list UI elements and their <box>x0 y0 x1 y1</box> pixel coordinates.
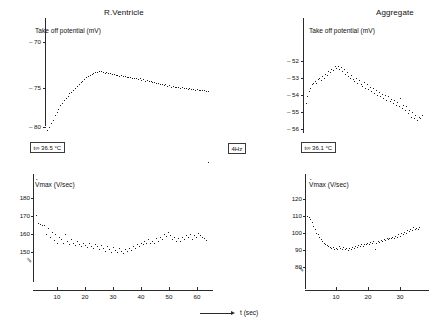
data-point <box>319 237 320 238</box>
data-point <box>90 75 91 76</box>
data-point <box>106 72 107 73</box>
data-point <box>147 80 148 81</box>
data-point <box>164 85 165 86</box>
data-point <box>310 88 311 89</box>
data-point <box>156 83 157 84</box>
data-point <box>88 76 89 77</box>
data-point <box>368 89 369 90</box>
data-point <box>167 86 168 87</box>
data-point <box>61 239 62 240</box>
data-point <box>178 238 179 239</box>
data-point <box>422 115 423 116</box>
data-point <box>373 88 374 89</box>
data-point <box>371 91 372 92</box>
data-point <box>130 77 131 78</box>
data-point <box>376 90 377 91</box>
data-point <box>318 234 319 235</box>
data-point <box>93 73 94 74</box>
data-point <box>140 78 141 79</box>
data-point <box>113 247 114 248</box>
data-point <box>307 96 308 97</box>
data-point <box>119 248 120 249</box>
data-point <box>324 78 325 79</box>
scatter-points <box>216 0 432 162</box>
data-point <box>143 244 144 245</box>
data-point <box>200 90 201 91</box>
data-point <box>202 90 203 91</box>
data-point <box>58 109 59 110</box>
data-point <box>85 245 86 246</box>
data-point <box>174 237 175 238</box>
data-point <box>406 233 407 234</box>
data-point <box>373 241 374 242</box>
data-point <box>321 80 322 81</box>
data-point <box>71 92 72 93</box>
scatter-points <box>216 162 432 324</box>
data-point <box>133 246 134 247</box>
data-point <box>182 237 183 238</box>
data-point <box>75 88 76 89</box>
data-point <box>36 215 37 216</box>
data-point <box>338 66 339 67</box>
data-point <box>199 90 200 91</box>
data-point <box>138 79 139 80</box>
data-point <box>119 76 120 77</box>
data-point <box>327 75 328 76</box>
data-point <box>176 87 177 88</box>
data-point <box>51 123 52 124</box>
data-point <box>84 79 85 80</box>
data-point <box>47 130 48 131</box>
data-point <box>77 86 78 87</box>
data-point <box>194 235 195 236</box>
data-point <box>337 249 338 250</box>
data-point <box>391 99 392 100</box>
data-point <box>176 241 177 242</box>
data-point <box>55 115 56 116</box>
data-point <box>204 90 205 91</box>
data-point <box>99 71 100 72</box>
data-point <box>160 237 161 238</box>
data-point <box>313 83 314 84</box>
data-point <box>190 234 191 235</box>
data-point <box>73 90 74 91</box>
data-point <box>44 225 45 226</box>
data-point <box>388 96 389 97</box>
data-point <box>125 249 126 250</box>
data-point <box>81 246 82 247</box>
data-point <box>357 247 358 248</box>
data-point <box>399 106 400 107</box>
data-point <box>385 240 386 241</box>
data-point <box>369 244 370 245</box>
data-point <box>64 100 65 101</box>
data-point <box>331 248 332 249</box>
data-point <box>79 84 80 85</box>
data-point <box>171 87 172 88</box>
data-point <box>397 237 398 238</box>
data-point <box>110 73 111 74</box>
data-point <box>168 232 169 233</box>
data-point <box>107 246 108 247</box>
panel-rv-takeoff: R.Ventricle Take off potential (mV) – 70… <box>0 0 216 162</box>
data-point <box>354 248 355 249</box>
data-point <box>105 251 106 252</box>
data-point <box>206 240 207 241</box>
data-point <box>158 83 159 84</box>
data-point <box>396 105 397 106</box>
data-point <box>409 110 410 111</box>
data-point <box>60 105 61 106</box>
data-point <box>49 127 50 128</box>
data-point <box>143 79 144 80</box>
data-point <box>208 162 209 163</box>
data-point <box>375 249 376 250</box>
data-point <box>309 91 310 92</box>
data-point <box>99 249 100 250</box>
data-point <box>400 98 401 99</box>
data-point <box>208 91 209 92</box>
data-point <box>145 81 146 82</box>
data-point <box>137 244 138 245</box>
scatter-points <box>0 162 216 324</box>
data-point <box>403 105 404 106</box>
data-point <box>139 246 140 247</box>
data-point <box>193 89 194 90</box>
data-point <box>73 243 74 244</box>
